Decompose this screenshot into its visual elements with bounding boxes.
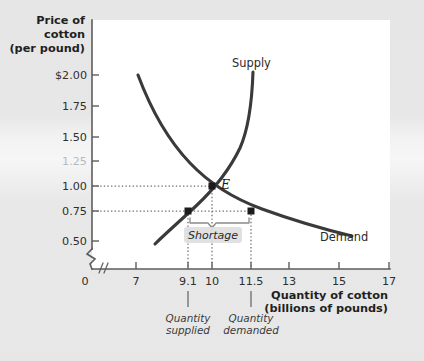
quantity-supplied-label-line2: supplied xyxy=(166,324,210,336)
y-tick-label-2.00: $2.00 xyxy=(55,69,87,82)
y-tick-label-1.50: 1.50 xyxy=(62,131,87,144)
x-axis-title-line2: (billions of pounds) xyxy=(264,302,388,315)
quantity-demanded-marker xyxy=(248,208,255,215)
x-tick-label-0: 0 xyxy=(81,275,88,288)
y-tick-label-1.75: 1.75 xyxy=(62,100,87,113)
equilibrium-marker xyxy=(209,183,216,190)
equilibrium-point-label: E xyxy=(220,177,230,192)
demand-curve-label: Demand xyxy=(320,230,368,244)
y-tick-label-1.00: 1.00 xyxy=(62,180,87,193)
y-axis-title-line3: (per pound) xyxy=(9,42,85,55)
x-tick-label-15: 15 xyxy=(332,275,346,288)
supply-demand-chart: Price of cotton (per pound) $2.00 1.75 1… xyxy=(0,0,424,361)
y-axis-title-line1: Price of xyxy=(36,14,86,27)
x-tick-label-17: 17 xyxy=(382,275,396,288)
x-tick-label-11.5: 11.5 xyxy=(239,275,264,288)
y-axis-title-line2: cotton xyxy=(44,28,85,41)
figure-page: Price of cotton (per pound) $2.00 1.75 1… xyxy=(0,0,424,361)
x-tick-label-13: 13 xyxy=(282,275,296,288)
y-tick-label-0.50: 0.50 xyxy=(62,235,87,248)
x-axis-title-line1: Quantity of cotton xyxy=(271,289,388,302)
x-tick-label-7: 7 xyxy=(132,275,139,288)
quantity-demanded-label-line1: Quantity xyxy=(229,312,275,324)
shortage-label: Shortage xyxy=(188,229,238,242)
supply-curve-label: Supply xyxy=(232,56,271,70)
quantity-supplied-label-line1: Quantity xyxy=(166,312,212,324)
x-tick-label-9.1: 9.1 xyxy=(179,275,197,288)
quantity-supplied-marker xyxy=(185,208,192,215)
quantity-demanded-label-line2: demanded xyxy=(223,324,279,336)
y-tick-label-0.75: 0.75 xyxy=(62,205,87,218)
y-tick-label-1.25: 1.25 xyxy=(62,155,87,168)
x-tick-label-10: 10 xyxy=(205,275,219,288)
